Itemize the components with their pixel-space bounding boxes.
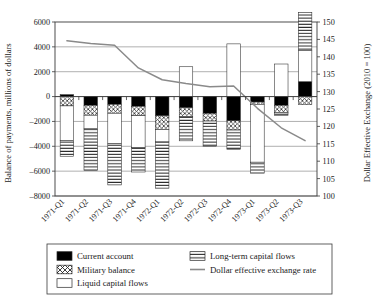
bar-segment-solid-black [108, 97, 122, 105]
bar-stack [60, 95, 73, 157]
legend-swatch-diagonal-crosshatch [57, 265, 72, 274]
y-tick-label: –4000 [29, 142, 50, 151]
y2-tick-label: 100 [323, 192, 335, 201]
legend-item: Liquid capital flows [57, 278, 148, 288]
y2-tick-label: 110 [323, 157, 335, 166]
x-tick-label: 1971-Q4 [111, 197, 138, 224]
chart-legend: Current accountLong-term capital flowsMi… [47, 244, 332, 294]
x-tick-label: 1971-Q1 [39, 197, 66, 224]
legend-label: Current account [77, 251, 134, 261]
bar-segment-diagonal-crosshatch [203, 113, 217, 121]
legend-label: Military balance [77, 265, 135, 275]
bar-segment-horizontal-lines [108, 144, 122, 185]
bar-segment-horizontal-lines [60, 140, 73, 156]
bar-segment-horizontal-lines [298, 13, 312, 51]
y-axis-right-ticks: 100105110115120125130135140145150 [317, 18, 335, 201]
legend-swatch-horizontal-lines [190, 252, 205, 261]
x-tick-label: 1973-Q3 [278, 197, 305, 224]
bar-segment-diagonal-crosshatch [179, 108, 193, 117]
balance-of-payments-chart: –8000–6000–4000–20000200040006000 100105… [0, 0, 379, 305]
bar-stack [203, 97, 217, 147]
y-tick-label: –2000 [29, 117, 50, 126]
bar-segment-diagonal-crosshatch [275, 105, 289, 112]
bar-series-group [60, 13, 312, 189]
x-tick-label: 1971-Q3 [87, 197, 114, 224]
legend-item: Military balance [57, 265, 135, 275]
legend-item: Current account [57, 251, 134, 261]
bar-segment-blank-white [132, 116, 146, 148]
bar-segment-solid-black [275, 97, 289, 106]
legend-label: Liquid capital flows [77, 278, 148, 288]
bar-segment-blank-white [108, 113, 122, 143]
bar-stack [298, 13, 312, 105]
bar-segment-solid-black [251, 97, 264, 102]
bar-segment-horizontal-lines [203, 121, 217, 146]
bar-segment-blank-white [84, 115, 98, 129]
bar-stack [179, 67, 193, 141]
bar-segment-solid-black [132, 97, 146, 107]
y-axis-left-title: Balance of payments, millions of dollars [3, 43, 13, 183]
bar-segment-diagonal-crosshatch [132, 106, 146, 115]
x-tick-label: 1972-Q4 [206, 197, 233, 224]
bar-segment-horizontal-lines [251, 162, 264, 173]
bar-segment-horizontal-lines [275, 112, 289, 115]
y-axis-left-ticks: –8000–6000–4000–20000200040006000 [29, 18, 55, 201]
y-tick-label: 6000 [34, 18, 50, 27]
bar-segment-blank-white [298, 51, 312, 82]
bar-segment-diagonal-crosshatch [84, 105, 98, 115]
bar-segment-horizontal-lines [132, 147, 146, 172]
bar-segment-solid-black [203, 97, 217, 114]
y-axis-right-title: Dollar Effective Exchange (2010 = 100) [362, 44, 372, 183]
y2-tick-label: 125 [323, 105, 335, 114]
legend-swatch-solid-black [57, 252, 72, 261]
bar-segment-diagonal-crosshatch [60, 97, 73, 106]
legend-label: Long-term capital flows [210, 251, 296, 261]
y2-tick-label: 145 [323, 35, 335, 44]
bar-segment-blank-white [275, 64, 289, 97]
y2-tick-label: 115 [323, 140, 335, 149]
bar-segment-solid-black [84, 97, 98, 106]
bar-stack [84, 97, 98, 171]
bar-stack [155, 97, 169, 189]
bar-segment-solid-black [227, 97, 241, 121]
bar-segment-solid-black [155, 97, 169, 116]
bar-segment-horizontal-lines [84, 129, 98, 170]
y-tick-label: –8000 [29, 192, 50, 201]
bar-stack [275, 64, 289, 115]
y2-tick-label: 135 [323, 70, 335, 79]
x-tick-label: 1973-Q1 [230, 197, 257, 224]
bar-segment-blank-white [179, 67, 193, 97]
x-tick-label: 1972-Q2 [158, 197, 185, 224]
y2-tick-label: 120 [323, 122, 335, 131]
x-tick-label: 1972-Q3 [182, 197, 209, 224]
x-axis-ticks: 1971-Q11971-Q21971-Q31971-Q41972-Q11972-… [39, 97, 317, 224]
bar-segment-diagonal-crosshatch [227, 121, 241, 130]
y-tick-label: 2000 [34, 68, 50, 77]
chart-figure: –8000–6000–4000–20000200040006000 100105… [0, 0, 379, 305]
x-tick-label: 1972-Q1 [135, 197, 162, 224]
bar-segment-horizontal-lines [155, 142, 169, 188]
y2-tick-label: 150 [323, 18, 335, 27]
y2-tick-label: 105 [323, 175, 335, 184]
y-tick-label: 4000 [34, 43, 50, 52]
bar-segment-solid-black [298, 82, 312, 97]
x-tick-label: 1971-Q2 [63, 197, 90, 224]
bar-stack [132, 97, 146, 172]
bar-segment-diagonal-crosshatch [155, 116, 169, 130]
bar-segment-blank-white [155, 130, 169, 142]
x-tick-label: 1973-Q2 [254, 197, 281, 224]
legend-swatch-blank-white [57, 279, 72, 288]
bar-segment-solid-black [179, 97, 193, 108]
bar-stack [108, 97, 122, 185]
y2-tick-label: 130 [323, 88, 335, 97]
y-tick-label: –6000 [29, 167, 50, 176]
legend-label: Dollar effective exchange rate [210, 265, 316, 275]
bar-segment-blank-white [60, 106, 73, 141]
bar-segment-diagonal-crosshatch [298, 97, 312, 105]
bar-segment-horizontal-lines [179, 116, 193, 140]
bar-segment-horizontal-lines [227, 130, 241, 149]
bar-segment-diagonal-crosshatch [108, 104, 122, 113]
bar-segment-blank-white [227, 44, 241, 97]
y2-tick-label: 140 [323, 53, 335, 62]
y-tick-label: 0 [46, 92, 50, 101]
